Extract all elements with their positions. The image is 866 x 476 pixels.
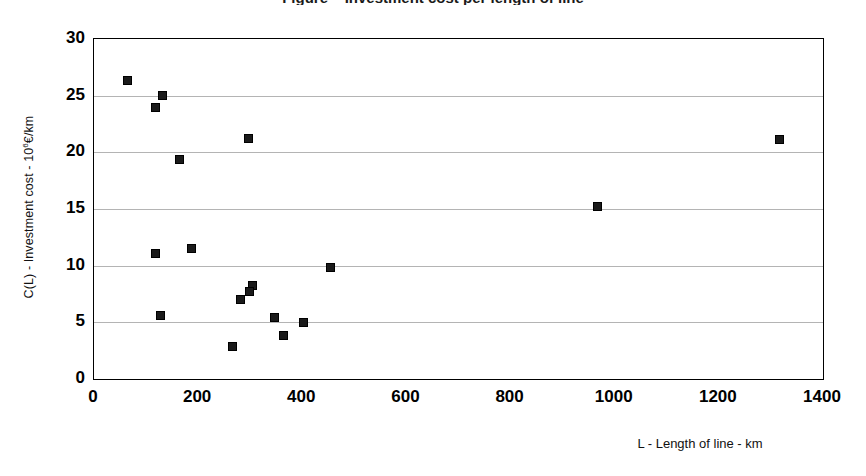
gridline-y-10: [94, 266, 823, 267]
y-tick-label-5: 5: [41, 312, 85, 329]
x-tick-label-800: 800: [475, 388, 545, 405]
x-tick-label-400: 400: [266, 388, 336, 405]
data-point: [244, 134, 253, 143]
data-point: [593, 202, 602, 211]
data-point: [151, 103, 160, 112]
y-axis-title-exponent: 6: [21, 143, 30, 148]
x-tick-label-1000: 1000: [579, 388, 649, 405]
y-axis-tick-labels: 051015202530: [30, 38, 85, 378]
data-point: [228, 342, 237, 351]
x-axis-title: L - Length of line - km: [560, 436, 840, 451]
x-tick-label-1400: 1400: [787, 388, 857, 405]
gridline-y-15: [94, 209, 823, 210]
data-point: [326, 263, 335, 272]
x-axis-tick-labels: 0200400600800100012001400: [93, 388, 822, 414]
y-tick-label-25: 25: [41, 86, 85, 103]
x-tick-label-200: 200: [162, 388, 232, 405]
x-tick-label-1200: 1200: [683, 388, 753, 405]
y-tick-label-0: 0: [41, 369, 85, 386]
data-point: [151, 249, 160, 258]
data-point: [279, 331, 288, 340]
data-point: [299, 318, 308, 327]
data-point: [775, 135, 784, 144]
x-tick-label-0: 0: [58, 388, 128, 405]
gridline-y-25: [94, 96, 823, 97]
y-tick-label-10: 10: [41, 256, 85, 273]
chart-title-clipped: Figure – Investment cost per length of l…: [0, 0, 866, 5]
data-point: [123, 76, 132, 85]
data-point: [158, 91, 167, 100]
data-point: [270, 313, 279, 322]
data-point: [245, 287, 254, 296]
data-point: [156, 311, 165, 320]
gridline-y-20: [94, 152, 823, 153]
y-tick-label-15: 15: [41, 199, 85, 216]
data-point: [175, 155, 184, 164]
plot-area: [93, 38, 824, 380]
y-tick-label-30: 30: [41, 29, 85, 46]
gridline-y-5: [94, 322, 823, 323]
data-point: [187, 244, 196, 253]
y-tick-label-20: 20: [41, 142, 85, 159]
scatter-chart-figure: Figure – Investment cost per length of l…: [0, 0, 866, 476]
data-point: [236, 295, 245, 304]
x-tick-label-600: 600: [370, 388, 440, 405]
